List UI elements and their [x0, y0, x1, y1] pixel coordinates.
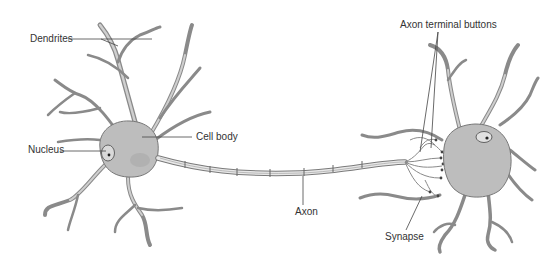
label-synapse: Synapse [385, 196, 424, 242]
postsynaptic-neuron [430, 45, 538, 252]
label-axon: Axon [295, 176, 318, 217]
svg-text:Dendrites: Dendrites [30, 33, 73, 44]
svg-text:Nucleus: Nucleus [28, 144, 64, 155]
presynaptic-neuron [45, 25, 210, 245]
svg-text:Synapse: Synapse [385, 231, 424, 242]
svg-text:Cell body: Cell body [196, 131, 238, 142]
svg-text:Axon: Axon [295, 206, 318, 217]
label-nucleus: Nucleus [28, 144, 106, 155]
nucleus-right [476, 132, 492, 143]
nucleus-left [102, 145, 115, 161]
neuron-diagram: Dendrites Nucleus Cell body Axon Axon te… [0, 0, 541, 260]
axon [158, 158, 405, 177]
svg-text:Axon terminal buttons: Axon terminal buttons [400, 19, 497, 30]
